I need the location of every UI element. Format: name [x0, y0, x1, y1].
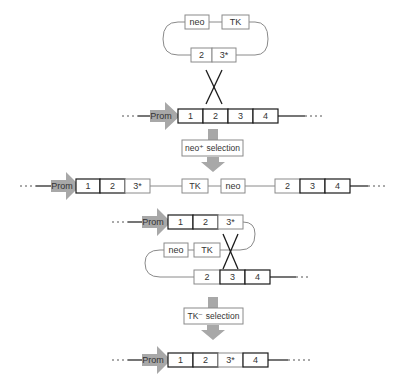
- exon-label: 1: [178, 355, 183, 365]
- plasmid: neo TK 2 3*: [163, 15, 268, 62]
- exon-label: 2: [204, 272, 209, 282]
- plasmid-exon3star-label: 3*: [220, 50, 229, 60]
- exon-label: 2: [110, 181, 115, 191]
- tk-selection-step: TK⁻ selection: [184, 297, 243, 340]
- marker-label: neo: [225, 181, 240, 191]
- tk-selection-label: TK⁻ selection: [188, 311, 240, 321]
- neo-selection-label: neo⁺ selection: [185, 143, 240, 153]
- exon-label: 3: [238, 111, 243, 121]
- plasmid-neo-label: neo: [189, 17, 204, 27]
- selection-arrow-stem-icon: [208, 129, 218, 140]
- exon-label: 3: [310, 181, 315, 191]
- exon-label: 4: [263, 111, 268, 121]
- exon-label: 4: [253, 355, 258, 365]
- exon-label: 2: [213, 111, 218, 121]
- promoter-label: Prom: [142, 355, 164, 365]
- exon-label: 2: [203, 217, 208, 227]
- integrated-row: Prom 1 2 3* TK neo 2 3 4: [20, 172, 386, 200]
- down-arrow-icon: [201, 325, 225, 340]
- plasmid-tk-label: TK: [230, 17, 242, 27]
- marker-label: TK: [189, 181, 201, 191]
- promoter-label: Prom: [51, 181, 73, 191]
- exon-label: 3*: [226, 217, 235, 227]
- plasmid-exon2-label: 2: [199, 50, 204, 60]
- neo-selection-step: neo⁺ selection: [182, 129, 243, 172]
- crossover-1: [206, 70, 222, 104]
- exon-label: 1: [188, 111, 193, 121]
- marker-label: neo: [168, 245, 183, 255]
- crossover-2: [223, 234, 238, 269]
- promoter-label: Prom: [150, 111, 172, 121]
- exon-label: 3: [230, 272, 235, 282]
- exon-label: 4: [255, 272, 260, 282]
- exon-label: 3*: [226, 355, 235, 365]
- down-arrow-icon: [201, 157, 225, 172]
- exon-label: 2: [285, 181, 290, 191]
- exon-label: 4: [335, 181, 340, 191]
- genome-row-1: Prom 1 2 3 4: [122, 102, 322, 130]
- exon-label: 3*: [133, 181, 142, 191]
- exon-label: 1: [85, 181, 90, 191]
- loop-row: Prom 1 2 3* neo TK 2 3 4: [112, 208, 310, 284]
- selection-arrow-stem-icon: [208, 297, 218, 308]
- promoter-label: Prom: [142, 217, 164, 227]
- exon-label: 2: [203, 355, 208, 365]
- final-row: Prom 1 2 3* 4: [112, 346, 312, 374]
- exon-label: 1: [178, 217, 183, 227]
- gene-targeting-diagram: neo TK 2 3* Prom 1 2 3 4 neo⁺ selection: [0, 0, 406, 382]
- marker-label: TK: [201, 245, 213, 255]
